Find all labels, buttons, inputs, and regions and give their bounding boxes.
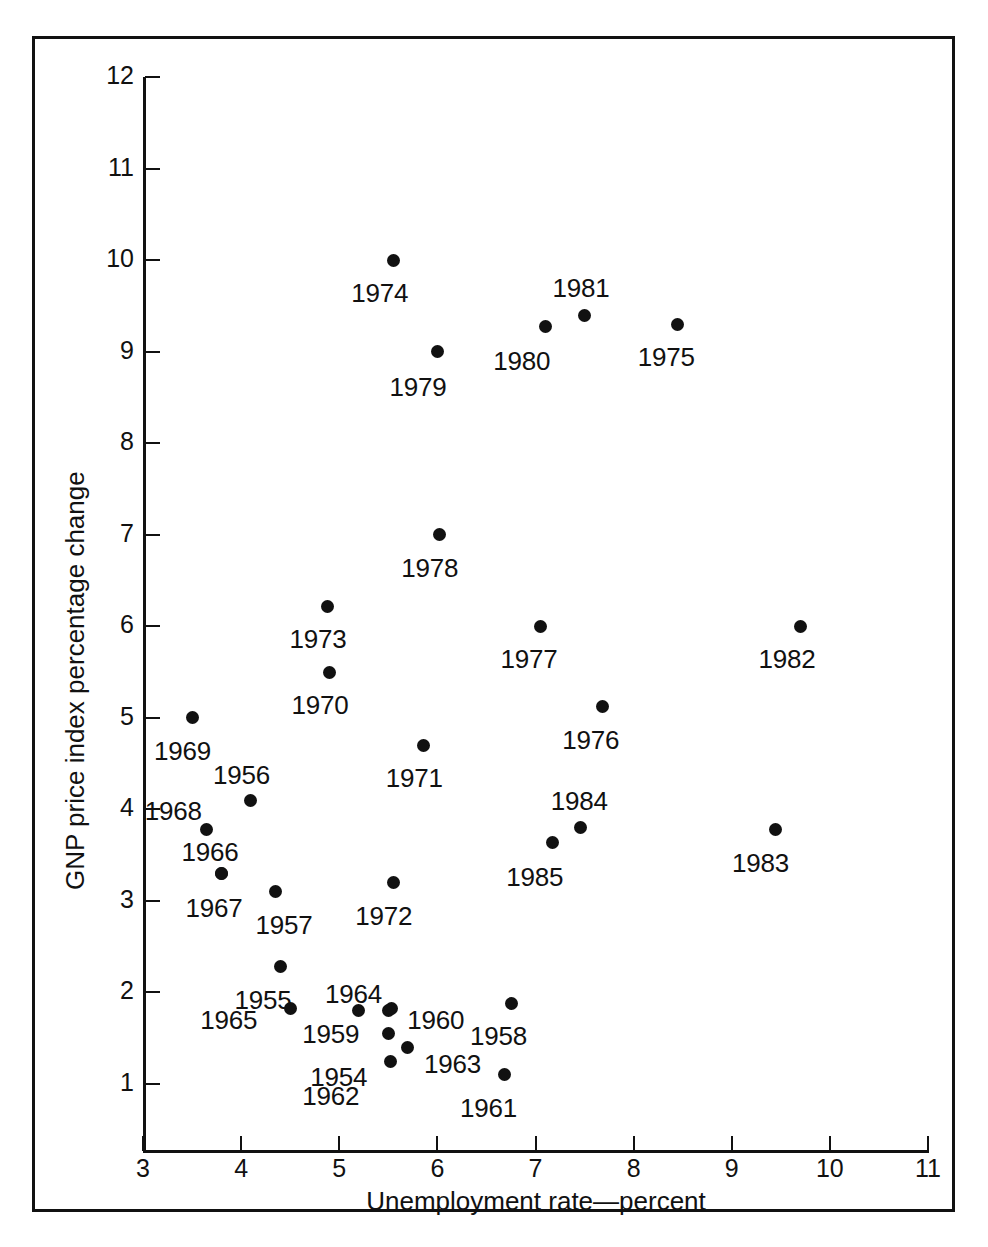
data-point-label: 1978 <box>401 553 458 584</box>
x-tick-mark <box>436 1136 438 1151</box>
y-tick-mark <box>145 168 160 170</box>
data-point-marker <box>671 318 684 331</box>
x-tick-label: 3 <box>123 1154 163 1183</box>
data-point-marker <box>200 823 213 836</box>
data-point-label: 1984 <box>551 786 608 817</box>
data-point-marker <box>574 821 587 834</box>
y-tick-label: 1 <box>78 1068 134 1097</box>
y-tick-mark <box>145 442 160 444</box>
y-tick-label: 8 <box>78 427 134 456</box>
data-point-label: 1968 <box>145 796 202 827</box>
data-point-marker <box>186 711 199 724</box>
data-point-label: 1969 <box>154 736 211 767</box>
y-tick-mark <box>145 76 160 78</box>
y-axis-title: GNP price index percentage change <box>60 471 91 890</box>
x-axis-title: Unemployment rate—percent <box>143 1186 929 1217</box>
y-tick-mark <box>145 717 160 719</box>
y-tick-mark <box>145 351 160 353</box>
data-point-label: 1972 <box>355 901 412 932</box>
data-point-marker <box>382 1027 395 1040</box>
y-tick-mark <box>145 625 160 627</box>
data-point-label: 1964 <box>325 979 382 1010</box>
data-point-label: 1960 <box>407 1005 464 1036</box>
y-tick-label: 10 <box>78 244 134 273</box>
x-tick-mark <box>240 1136 242 1151</box>
data-point-label: 1962 <box>302 1081 359 1112</box>
data-point-marker <box>387 254 400 267</box>
data-point-marker <box>244 794 257 807</box>
x-tick-mark <box>927 1136 929 1151</box>
y-tick-mark <box>145 1083 160 1085</box>
y-tick-mark <box>145 534 160 536</box>
data-point-marker <box>505 997 518 1010</box>
data-point-marker <box>387 876 400 889</box>
data-point-marker <box>498 1068 511 1081</box>
x-tick-mark <box>829 1136 831 1151</box>
x-tick-mark <box>535 1136 537 1151</box>
data-point-label: 1965 <box>200 1005 257 1036</box>
data-point-marker <box>215 867 228 880</box>
x-tick-label: 10 <box>810 1154 850 1183</box>
data-point-marker <box>546 836 559 849</box>
x-tick-mark <box>731 1136 733 1151</box>
data-point-marker <box>431 345 444 358</box>
data-point-marker <box>534 620 547 633</box>
data-point-marker <box>284 1002 297 1015</box>
data-point-label: 1961 <box>460 1093 517 1124</box>
data-point-label: 1967 <box>186 893 243 924</box>
x-tick-mark <box>142 1136 144 1151</box>
data-point-label: 1977 <box>500 644 557 675</box>
x-tick-label: 5 <box>319 1154 359 1183</box>
y-tick-mark <box>145 991 160 993</box>
data-point-label: 1981 <box>553 273 610 304</box>
y-tick-label: 11 <box>78 153 134 182</box>
data-point-label: 1976 <box>562 725 619 756</box>
x-tick-label: 4 <box>221 1154 261 1183</box>
y-tick-label: 12 <box>78 61 134 90</box>
data-point-label: 1957 <box>255 910 312 941</box>
data-point-label: 1959 <box>302 1019 359 1050</box>
data-point-label: 1979 <box>389 372 446 403</box>
x-tick-label: 9 <box>712 1154 752 1183</box>
data-point-label: 1985 <box>506 862 563 893</box>
data-point-marker <box>794 620 807 633</box>
data-point-marker <box>769 823 782 836</box>
x-tick-label: 11 <box>908 1154 948 1183</box>
data-point-label: 1980 <box>493 346 550 377</box>
data-point-marker <box>596 700 609 713</box>
data-point-marker <box>321 600 334 613</box>
x-tick-mark <box>338 1136 340 1151</box>
data-point-marker <box>578 309 591 322</box>
data-point-label: 1956 <box>213 760 270 791</box>
data-point-marker <box>417 739 430 752</box>
data-point-marker <box>539 320 552 333</box>
data-point-marker <box>433 528 446 541</box>
x-tick-label: 8 <box>614 1154 654 1183</box>
data-point-label: 1975 <box>638 342 695 373</box>
y-tick-label: 2 <box>78 976 134 1005</box>
data-point-marker <box>401 1041 414 1054</box>
y-tick-mark <box>145 900 160 902</box>
x-tick-label: 6 <box>417 1154 457 1183</box>
data-point-label: 1974 <box>351 278 408 309</box>
data-point-marker <box>385 1002 398 1015</box>
figure-page: 123456789101112 34567891011 195419551956… <box>0 0 988 1247</box>
data-point-label: 1970 <box>291 690 348 721</box>
data-point-label: 1971 <box>386 763 443 794</box>
data-point-label: 1973 <box>289 624 346 655</box>
x-tick-mark <box>633 1136 635 1151</box>
data-point-label: 1982 <box>758 644 815 675</box>
x-tick-label: 7 <box>516 1154 556 1183</box>
data-point-label: 1958 <box>470 1021 527 1052</box>
data-point-label: 1963 <box>424 1049 481 1080</box>
data-point-marker <box>269 885 282 898</box>
y-tick-label: 9 <box>78 336 134 365</box>
y-tick-mark <box>145 259 160 261</box>
data-point-marker <box>384 1055 397 1068</box>
data-point-label: 1966 <box>182 837 239 868</box>
data-point-label: 1983 <box>732 848 789 879</box>
data-point-marker <box>323 666 336 679</box>
data-point-marker <box>274 960 287 973</box>
scatter-plot: 123456789101112 34567891011 195419551956… <box>0 0 988 1247</box>
